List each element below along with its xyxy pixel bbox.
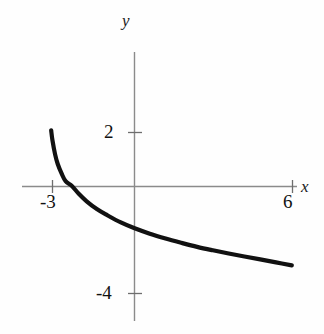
x-axis-label: x (301, 178, 309, 195)
y-axis-label: y (122, 12, 130, 29)
x-tick-label-neg3: -3 (40, 192, 56, 211)
logarithmic-curve (51, 130, 292, 265)
x-tick-label-6: 6 (283, 192, 293, 211)
coordinate-plane-svg (0, 0, 324, 334)
graph-figure: y x 2 -4 -3 6 (0, 0, 324, 334)
y-tick-label-neg4: -4 (96, 283, 112, 302)
y-tick-label-2: 2 (104, 122, 114, 141)
